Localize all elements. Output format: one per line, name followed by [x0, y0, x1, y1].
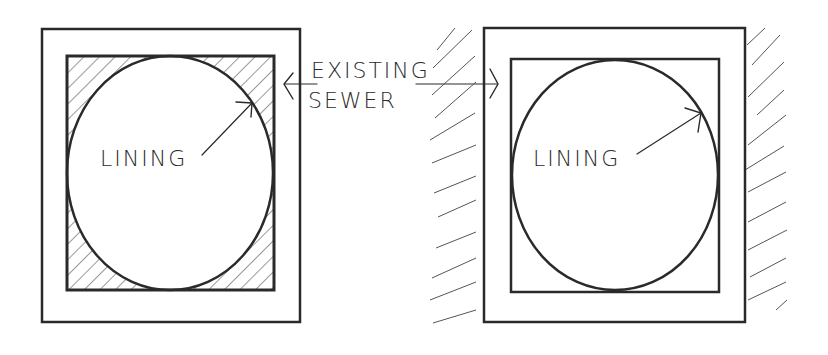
right-lining-leader [637, 113, 701, 154]
right-lining-label: LINING [533, 146, 620, 171]
right-lining-circle [512, 60, 718, 290]
existing-sewer-annotation: EXISTING SEWER [284, 58, 498, 113]
diagram-canvas: LINING EXISTING SEWER [0, 0, 828, 355]
left-figure: LINING [42, 29, 300, 322]
left-lining-label: LINING [100, 146, 187, 171]
annotation-line1: EXISTING [311, 58, 430, 83]
right-arrowhead-icon [685, 108, 701, 132]
right-figure: LINING [430, 28, 787, 323]
right-soil-hatching [745, 28, 787, 310]
annotation-line2: SEWER [308, 88, 397, 113]
left-pointer-arrowhead-icon [284, 73, 293, 99]
right-outer-wall [484, 28, 745, 322]
left-soil-hatching [430, 28, 476, 323]
